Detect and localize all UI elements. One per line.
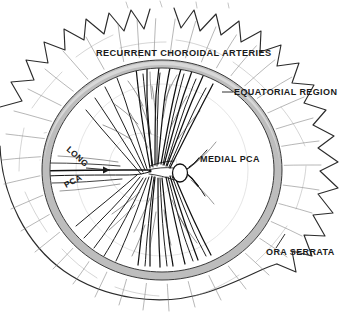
label-medial-pca: MEDIAL PCA bbox=[200, 154, 260, 164]
medial-pca-trunk bbox=[186, 142, 216, 204]
ora-serrata-leader bbox=[276, 234, 285, 248]
optic-disc bbox=[173, 164, 188, 182]
figure-root: RECURRENT CHOROIDAL ARTERIES EQUATORIAL … bbox=[0, 0, 341, 317]
label-recurrent-choroidal-arteries: RECURRENT CHOROIDAL ARTERIES bbox=[96, 48, 272, 58]
vascular-hub bbox=[148, 169, 151, 172]
label-ora-serrata: ORA SERRATA bbox=[266, 247, 335, 257]
choroidal-vasculature-diagram: RECURRENT CHOROIDAL ARTERIES EQUATORIAL … bbox=[0, 0, 341, 317]
cropped-top-marks bbox=[126, 1, 229, 8]
label-equatorial-region: EQUATORIAL REGION bbox=[234, 87, 337, 97]
